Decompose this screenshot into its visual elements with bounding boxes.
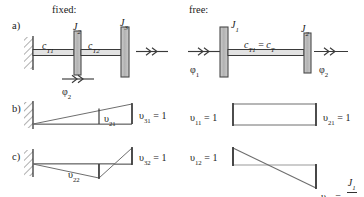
inertia-disk-j2 — [74, 31, 81, 75]
label-j2-free: J2 — [301, 19, 309, 38]
header-fixed: fixed: — [52, 5, 77, 16]
label-phi2-fixed: φ2 — [62, 82, 71, 101]
label-v21-free: υ21 = 1 — [323, 108, 350, 127]
torsion-arrow-phi1-free — [188, 48, 220, 55]
row-label-b: b) — [12, 104, 21, 115]
label-v22-fixed: υ22 — [68, 165, 80, 184]
mode-shape-c-free-slope — [233, 148, 316, 188]
wall-support-b — [24, 101, 33, 129]
panel-b-free-geometry — [233, 103, 316, 126]
label-j3-fixed: J3 — [120, 13, 128, 32]
inertia-disk-j2-free — [304, 33, 311, 73]
panel-c-free-geometry — [233, 147, 316, 189]
label-ct-free: cT1 = cT — [244, 35, 275, 54]
torsion-arrow-phi2-free — [314, 48, 348, 55]
figure-geometry — [0, 0, 364, 197]
label-j2-fixed: J2 — [73, 17, 81, 36]
label-j1-free: J1 — [231, 15, 239, 34]
mode-shape-c-fixed-neg — [33, 164, 99, 178]
label-v32-fixed: υ32 = 1 — [139, 148, 166, 167]
wall-support-c — [24, 149, 33, 177]
panel-b-fixed-geometry — [24, 101, 132, 129]
wall-support-a — [24, 36, 33, 70]
label-v31-fixed: υ31 = 1 — [139, 106, 166, 125]
label-ct1-fixed: cT1 — [42, 36, 54, 55]
label-v21-fixed: υ21 — [104, 109, 116, 128]
label-phi1-free: φ1 — [190, 60, 199, 79]
row-label-c: c) — [12, 152, 20, 163]
label-v22-free-fraction: υ22 = -J1J2 — [321, 172, 357, 197]
torsion-arrow-j3 — [136, 48, 168, 55]
mode-shape-b-free — [233, 104, 316, 125]
label-v11-free: υ11 = 1 — [190, 108, 217, 127]
label-v12-free: υ12 = 1 — [190, 148, 217, 167]
inertia-disk-j3 — [121, 27, 129, 77]
mode-shape-b-fixed — [33, 104, 132, 124]
shaft-segment-ct2 — [81, 50, 121, 56]
inertia-disk-j1-free — [220, 27, 228, 77]
label-phi2-free: φ2 — [319, 60, 328, 79]
row-label-a: a) — [12, 21, 20, 32]
header-free: free: — [189, 5, 208, 16]
label-ct2-fixed: cT2 — [88, 36, 100, 55]
mode-shape-c-fixed-pos — [99, 148, 132, 178]
